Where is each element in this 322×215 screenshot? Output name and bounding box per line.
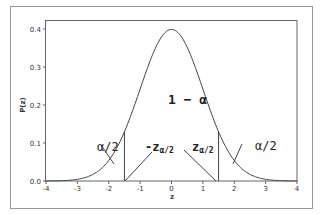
y-tick-label: 0.4 bbox=[30, 26, 42, 34]
y-tick-label: 0.0 bbox=[30, 178, 41, 186]
y-tick-label: 0.1 bbox=[30, 140, 41, 148]
neg-crit-label: -zα/2 bbox=[145, 140, 174, 155]
crit-label: zα/2 bbox=[192, 140, 214, 155]
x-tick-label: -2 bbox=[105, 185, 112, 193]
x-tick-label: 1 bbox=[201, 185, 205, 193]
y-axis: 0.00.10.20.30.4 bbox=[30, 26, 46, 186]
x-tick-label: 2 bbox=[232, 185, 236, 193]
x-tick-label: 4 bbox=[295, 185, 300, 193]
x-tick-label: 0 bbox=[169, 185, 173, 193]
left-tail-label: α/2 bbox=[97, 140, 119, 154]
x-tick-label: -4 bbox=[43, 185, 51, 193]
x-tick-label: -3 bbox=[74, 185, 81, 193]
y-axis-title: P(z) bbox=[19, 97, 27, 113]
x-tick-label: -1 bbox=[137, 185, 144, 193]
neg-crit-pointer bbox=[125, 152, 152, 181]
center-area-label: 1 − α bbox=[168, 92, 207, 107]
right-tail-pointer bbox=[233, 144, 242, 164]
x-tick-label: 3 bbox=[263, 185, 267, 193]
y-tick-label: 0.2 bbox=[30, 102, 41, 110]
x-axis-title: z bbox=[170, 193, 174, 201]
normal-distribution-chart: 0.00.10.20.30.4 -4-3-2-101234 z P(z) 1 −… bbox=[0, 0, 322, 215]
right-tail-label: α/2 bbox=[255, 139, 277, 153]
y-tick-label: 0.3 bbox=[30, 64, 41, 72]
x-axis: -4-3-2-101234 bbox=[43, 181, 300, 193]
